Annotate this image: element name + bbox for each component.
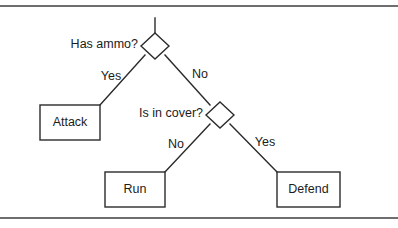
- outcome-label-attack: Attack: [53, 115, 88, 129]
- figure-canvas: Has ammo? Is in cover? Attack Run Defend…: [0, 0, 398, 228]
- edge-label-is-in-cover-yes: Yes: [255, 135, 275, 149]
- edge-label-is-in-cover-no: No: [168, 137, 184, 151]
- decision-label-has-ammo: Has ammo?: [71, 37, 138, 51]
- outcome-label-defend: Defend: [288, 182, 328, 196]
- edge-label-has-ammo-yes: Yes: [101, 69, 121, 83]
- decision-tree-diagram: Has ammo? Is in cover? Attack Run Defend…: [0, 0, 398, 228]
- outcome-label-run: Run: [124, 182, 147, 196]
- edge-label-has-ammo-no: No: [192, 67, 208, 81]
- decision-label-is-in-cover: Is in cover?: [139, 106, 203, 120]
